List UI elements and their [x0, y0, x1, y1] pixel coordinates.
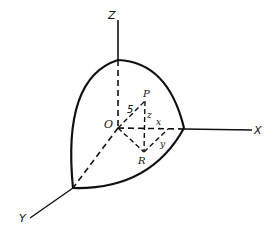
y-axis-label: Y — [19, 212, 27, 225]
point-r-label: R — [137, 155, 146, 166]
x-axis-solid — [184, 129, 252, 130]
octant-diagram: Z X Y O P R 5 z x y — [0, 0, 276, 237]
radius-label: 5 — [127, 104, 133, 115]
y-axis-solid — [30, 188, 73, 218]
segment-pr — [144, 101, 145, 152]
point-p-label: P — [142, 88, 150, 99]
surface-curve-bottom — [73, 128, 184, 188]
z-segment-label: z — [146, 110, 152, 120]
x-axis-label: X — [253, 124, 262, 137]
y-segment-label: y — [159, 139, 166, 149]
segment-or — [118, 128, 144, 152]
y-axis-dashed — [73, 128, 118, 188]
x-axis-dashed — [118, 128, 184, 129]
origin-label: O — [104, 118, 113, 131]
x-segment-label: x — [156, 117, 161, 127]
z-axis-label: Z — [107, 9, 116, 22]
